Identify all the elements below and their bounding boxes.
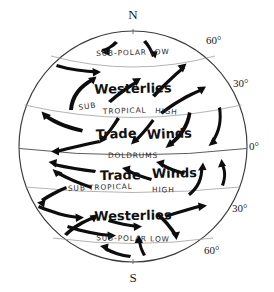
latitude-line-60n xyxy=(51,56,215,67)
wind-arrow-trade-n-1 xyxy=(44,114,83,133)
wind-arrow-trade-n-6 xyxy=(211,107,222,143)
pressure-band-label-subtropical-high-north-part3: HIGH xyxy=(155,106,178,117)
south-pole-label: S xyxy=(129,270,136,285)
pressure-band-label-subtropical-high-south-part1: SUB TROPICAL xyxy=(68,182,133,193)
latitude-label-60s: 60° xyxy=(204,244,219,256)
globe-wind-diagram-canvas: N S 60° 30° 0° 30° 60° SUB-POLAR LOW xyxy=(0,0,274,292)
wind-arrow-trade-n-2 xyxy=(56,140,100,153)
wind-arrow-westerlies-s-0 xyxy=(41,186,67,202)
wind-belt-label-trade-north-part2: Winds xyxy=(147,125,193,142)
wind-arrow-trade-s-1-head xyxy=(49,159,58,168)
wind-belt-label-trade-south-part1: Trade xyxy=(100,167,141,183)
wind-arrow-trade-s-1 xyxy=(54,163,97,173)
wind-circulation-diagram: N S 60° 30° 0° 30° 60° SUB-POLAR LOW xyxy=(0,0,274,292)
wind-arrow-westerlies-s-5-head xyxy=(198,203,207,212)
wind-arrow-polar-s-1 xyxy=(105,247,132,258)
wind-arrow-westerlies-s-6-head xyxy=(134,223,143,232)
wind-arrow-trade-s-6-head xyxy=(218,159,226,168)
pressure-band-label-subpolar-low-south: SUB-POLAR LOW xyxy=(96,233,170,243)
wind-belt-label-trade-north-part1: Trade xyxy=(96,126,137,142)
wind-arrow-westerlies-n-1-head xyxy=(93,68,102,77)
latitude-label-60n: 60° xyxy=(206,34,221,46)
pressure-band-label-doldrums: DOLDRUMS xyxy=(108,151,158,160)
pressure-band-label-subpolar-low-north: SUB-POLAR LOW xyxy=(96,47,170,58)
wind-arrow-polar-s-1-head xyxy=(100,244,109,253)
wind-arrow-trade-n-2-head xyxy=(51,147,59,156)
wind-belt-label-trade-south-part2: Winds xyxy=(152,165,198,181)
north-pole-label: N xyxy=(128,7,138,22)
wind-belt-label-westerlies-north: Westerlies xyxy=(94,80,172,96)
pressure-band-label-subtropical-high-south-part2: HIGH xyxy=(152,185,175,194)
pressure-band-label-subtropical-high-north-part1: SUB xyxy=(78,100,97,112)
latitude-label-30n: 30° xyxy=(233,77,248,89)
wind-arrow-westerlies-s-1 xyxy=(38,205,80,219)
wind-belt-label-westerlies-south: Westerlies xyxy=(94,207,172,223)
wind-arrow-trade-s-5-head xyxy=(198,163,207,171)
latitude-label-30s: 30° xyxy=(232,202,247,214)
latitude-label-equator: 0° xyxy=(249,140,259,152)
pressure-band-label-subtropical-high-north-part2: TROPICAL xyxy=(102,105,147,116)
wind-arrow-westerlies-n-1 xyxy=(56,64,98,74)
